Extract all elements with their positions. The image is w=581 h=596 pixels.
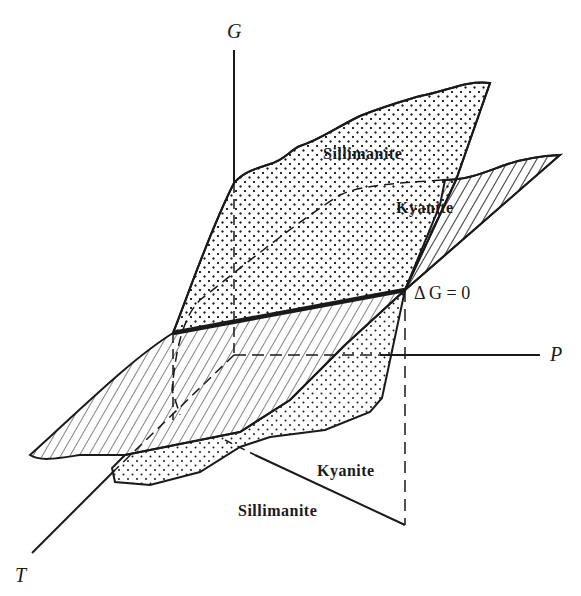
sillimanite-lower-label: Sillimanite (238, 502, 317, 520)
t-axis-label: T (15, 564, 26, 587)
g-axis-label: G (227, 20, 241, 43)
p-axis-label: P (550, 343, 562, 366)
kyanite-upper-label: Kyanite (396, 199, 454, 217)
sillimanite-upper-label: Sillimanite (323, 145, 402, 163)
kyanite-lower-label: Kyanite (317, 462, 375, 480)
t-axis (32, 470, 115, 553)
equilibrium-label: Δ G = 0 (414, 283, 470, 304)
